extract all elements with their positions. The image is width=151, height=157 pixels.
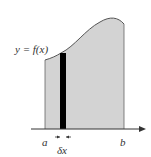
area-under-curve-diagram: y = f(x) a b δx	[0, 0, 151, 157]
strip-delta-x	[60, 53, 66, 129]
delta-x-arrowhead-right-icon	[66, 136, 69, 139]
shaded-area	[45, 18, 124, 129]
function-label: y = f(x)	[14, 43, 48, 56]
strip-width-label: δx	[57, 144, 67, 156]
x-axis-arrow-icon	[139, 126, 146, 132]
delta-x-arrowhead-left-icon	[57, 136, 60, 139]
upper-limit-label: b	[120, 136, 126, 148]
lower-limit-label: a	[42, 136, 48, 148]
